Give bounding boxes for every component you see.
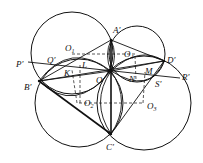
label-k: K (63, 68, 71, 78)
label-o3: O3 (147, 101, 157, 112)
line-od (111, 61, 164, 71)
point-b (38, 80, 40, 82)
side-da (111, 40, 164, 61)
label-d: D′ (166, 55, 176, 65)
side-bc (39, 81, 111, 134)
label-b: B′ (24, 82, 32, 92)
label-o2: O2 (84, 98, 94, 109)
label-l: L (81, 60, 87, 70)
dash-o4-n (135, 56, 136, 80)
label-m: M (144, 66, 153, 76)
label-q: Q′ (47, 55, 56, 65)
point-o (109, 69, 113, 73)
label-o4: O4 (124, 49, 134, 60)
point-a (110, 39, 112, 41)
label-o: O (96, 75, 103, 85)
label-s: S′ (155, 79, 163, 89)
point-d (163, 60, 165, 62)
geometry-diagram: A′ B′ C′ D′ P′ Q′ R′ S′ O K L M N O1 O4 … (0, 0, 203, 163)
label-a: A′ (112, 25, 121, 35)
point-c (110, 133, 112, 135)
label-r: R′ (181, 72, 190, 82)
label-o1: O1 (65, 43, 75, 54)
label-c: C′ (106, 142, 115, 152)
label-p: P′ (15, 59, 24, 69)
label-n: N (128, 74, 136, 84)
